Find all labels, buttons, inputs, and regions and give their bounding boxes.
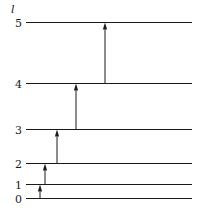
level-line-group [26,23,192,199]
level-label-1: 1 [10,180,22,191]
transition-2-to-3-head-icon [55,130,59,137]
transition-1-to-2 [43,164,47,185]
axis-label-l: l [11,4,15,15]
level-label-5: 5 [10,18,22,29]
level-label-4: 4 [10,79,22,90]
transition-4-to-5 [103,23,107,84]
transition-3-to-4 [74,84,78,130]
transition-1-to-2-head-icon [43,164,47,171]
level-label-2: 2 [10,159,22,170]
energy-level-diagram: l 543210 [0,0,199,212]
transition-3-to-4-head-icon [74,84,78,91]
level-label-0: 0 [10,194,22,205]
transition-0-to-1 [38,185,42,199]
transition-arrow-group [38,23,107,199]
transition-0-to-1-head-icon [38,185,42,192]
diagram-canvas [0,0,199,212]
transition-4-to-5-head-icon [103,23,107,30]
transition-2-to-3 [55,130,59,164]
level-label-3: 3 [10,125,22,136]
